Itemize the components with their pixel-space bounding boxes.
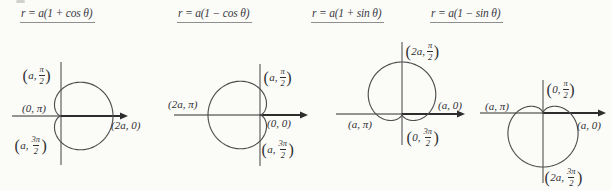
fraction-numerator: 3π — [566, 167, 577, 177]
angle-fraction: 3π2 — [278, 139, 289, 159]
left-paren-icon: ( — [405, 42, 411, 60]
left-paren-icon: ( — [406, 128, 412, 146]
point-label: (0,3π2) — [406, 127, 439, 147]
radius-value: 2a, — [550, 172, 564, 183]
print-artifact-mark — [16, 0, 25, 3]
axis-arrowhead-icon — [457, 111, 465, 118]
point-label: (a,3π2) — [14, 135, 47, 155]
point-label: (2a, π) — [168, 98, 197, 110]
left-paren-icon: ( — [14, 136, 20, 154]
radius-value: 0, — [552, 84, 560, 95]
cardioid-reference-figure: r = a(1 + cos θ) r = a(1 − cos θ) r = a(… — [0, 0, 611, 190]
point-label: (a,π2) — [22, 65, 51, 85]
axis-arrowhead-icon — [598, 110, 606, 117]
point-label: (0, 0) — [267, 117, 291, 129]
axis-arrowhead-icon — [300, 112, 308, 119]
radius-value: 2a, — [411, 46, 425, 57]
equation-title-1-plus-sin: r = a(1 + sin θ) — [311, 7, 384, 23]
right-paren-icon: ) — [577, 168, 583, 186]
point-label: (a, π) — [348, 118, 372, 130]
radius-value: a, — [267, 144, 275, 155]
point-label: (2a,3π2) — [544, 167, 583, 187]
right-paren-icon: ) — [569, 80, 575, 98]
right-paren-icon: ) — [286, 68, 292, 86]
fraction-denominator: 2 — [425, 137, 431, 148]
fraction-denominator: 2 — [568, 177, 574, 188]
right-paren-icon: ) — [41, 136, 47, 154]
left-paren-icon: ( — [261, 140, 267, 158]
right-paren-icon: ) — [433, 42, 439, 60]
equation-title-1-minus-sin: r = a(1 − sin θ) — [430, 7, 503, 23]
angle-fraction: 3π2 — [566, 167, 577, 187]
radius-value: 0, — [412, 132, 420, 143]
point-label: (0, π) — [22, 102, 46, 114]
right-paren-icon: ) — [45, 66, 51, 84]
point-label: (a, 0) — [577, 119, 601, 131]
point-label: (a, π) — [485, 100, 509, 112]
right-paren-icon: ) — [288, 140, 294, 158]
equation-title-1-minus-cos: r = a(1 − cos θ) — [177, 7, 252, 23]
point-label: (a,π2) — [263, 67, 292, 87]
right-paren-icon: ) — [433, 128, 439, 146]
angle-fraction: 3π2 — [31, 135, 42, 155]
equation-title-1-plus-cos: r = a(1 + cos θ) — [20, 7, 95, 23]
radius-value: a, — [269, 72, 277, 83]
left-paren-icon: ( — [544, 168, 550, 186]
radius-value: a, — [28, 70, 36, 81]
left-paren-icon: ( — [22, 66, 28, 84]
left-paren-icon: ( — [263, 68, 269, 86]
point-label: (a,3π2) — [261, 139, 294, 159]
point-label: (2a, 0) — [111, 119, 140, 131]
fraction-denominator: 2 — [280, 149, 286, 160]
point-label: (a, 0) — [438, 99, 462, 111]
point-label: (0,π2) — [546, 79, 575, 99]
fraction-numerator: 3π — [31, 135, 42, 145]
fraction-numerator: 3π — [278, 139, 289, 149]
point-label: (2a,π2) — [405, 41, 440, 61]
angle-fraction: 3π2 — [423, 127, 434, 147]
polar-plots-canvas — [0, 0, 611, 190]
left-paren-icon: ( — [546, 80, 552, 98]
radius-value: a, — [20, 140, 28, 151]
fraction-denominator: 2 — [33, 145, 39, 156]
fraction-numerator: 3π — [423, 127, 434, 137]
